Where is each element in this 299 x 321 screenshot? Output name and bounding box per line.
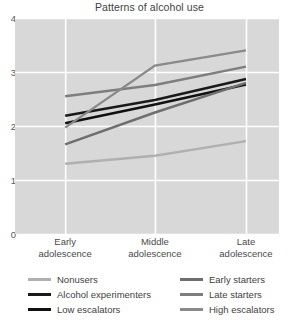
y-tick-label: 4 — [2, 13, 16, 24]
plot-svg — [15, 18, 279, 234]
legend-line-swatch-icon — [180, 293, 203, 296]
y-tick-label: 0 — [2, 229, 16, 240]
x-tick-label: Lateadolescence — [201, 236, 291, 260]
x-tick-label-line1: Early — [20, 236, 110, 248]
x-tick-label-line2: adolescence — [201, 248, 291, 260]
legend-item-label: Low escalators — [57, 305, 120, 315]
legend-line-swatch-icon — [28, 308, 51, 311]
plot-area — [15, 18, 279, 234]
chart-legend: NonusersAlcohol experimentersLow escalat… — [18, 272, 294, 318]
legend-item-label: High escalators — [209, 305, 274, 315]
x-axis: EarlyadolescenceMiddleadolescenceLateado… — [15, 236, 279, 270]
legend-item[interactable]: Nonusers — [28, 272, 151, 287]
x-tick-label: Middleadolescence — [110, 236, 200, 260]
x-tick-label-line1: Middle — [110, 236, 200, 248]
x-tick-label-line2: adolescence — [110, 248, 200, 260]
legend-item[interactable]: Early starters — [180, 272, 274, 287]
legend-item-label: Early starters — [209, 275, 265, 285]
chart-figure: Patterns of alcohol use 01234 Earlyadole… — [0, 0, 299, 321]
legend-column-left: NonusersAlcohol experimentersLow escalat… — [28, 272, 151, 317]
legend-item[interactable]: Late starters — [180, 287, 274, 302]
legend-item-label: Late starters — [209, 290, 262, 300]
x-tick-label: Earlyadolescence — [20, 236, 110, 260]
legend-line-swatch-icon — [28, 278, 51, 281]
y-tick-label: 1 — [2, 175, 16, 186]
x-tick-label-line1: Late — [201, 236, 291, 248]
y-tick-label: 3 — [2, 67, 16, 78]
x-tick-label-line2: adolescence — [20, 248, 110, 260]
legend-item-label: Alcohol experimenters — [57, 290, 151, 300]
legend-line-swatch-icon — [180, 308, 203, 311]
legend-item[interactable]: Alcohol experimenters — [28, 287, 151, 302]
legend-line-swatch-icon — [28, 293, 51, 296]
legend-item[interactable]: High escalators — [180, 302, 274, 317]
legend-item[interactable]: Low escalators — [28, 302, 151, 317]
y-tick-label: 2 — [2, 121, 16, 132]
legend-item-label: Nonusers — [57, 275, 98, 285]
legend-column-right: Early startersLate startersHigh escalato… — [180, 272, 274, 317]
legend-line-swatch-icon — [180, 278, 203, 281]
